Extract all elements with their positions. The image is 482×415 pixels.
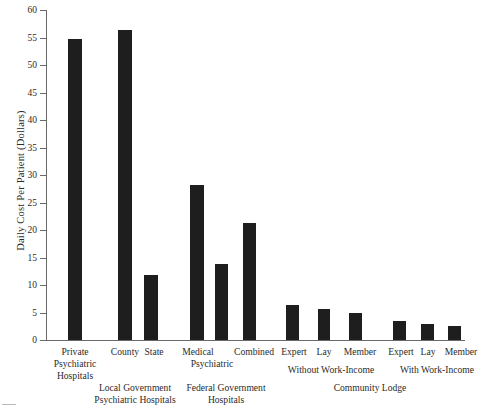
bar-expert-without-work-income [286, 305, 299, 340]
y-axis-title: Daily Cost Per Patient (Dollars) [15, 81, 26, 281]
y-tick-mark-45 [40, 93, 46, 94]
category-label-medical-line2: Psychiatric [172, 358, 252, 370]
bar-state [144, 275, 158, 340]
y-tick-label-35: 35 [0, 143, 37, 153]
group-label-with-work-income: With Work-Income [382, 364, 482, 376]
bar-combined [243, 223, 256, 340]
y-axis-line [46, 10, 47, 340]
group-label-federal-government-line2: Hospitals [188, 394, 264, 406]
y-tick-mark-30 [40, 175, 46, 176]
y-tick-label-30: 30 [0, 170, 37, 180]
y-tick-mark-5 [40, 313, 46, 314]
y-tick-mark-50 [40, 65, 46, 66]
y-tick-mark-40 [40, 120, 46, 121]
group-label-local-government-line2: Psychiatric Hospitals [67, 394, 203, 406]
y-tick-mark-25 [40, 203, 46, 204]
y-tick-label-60: 60 [0, 5, 37, 15]
y-tick-mark-60 [40, 10, 46, 11]
category-label-medical: Medical [167, 346, 229, 358]
y-tick-mark-55 [40, 38, 46, 39]
y-tick-label-45: 45 [0, 88, 37, 98]
y-tick-label-5: 5 [0, 308, 37, 318]
y-tick-mark-0 [40, 340, 46, 341]
bar-lay-with-work-income [421, 324, 434, 341]
category-label-private-line3: Hospitals [35, 370, 115, 382]
category-label-private-line2: Psychiatric [35, 358, 115, 370]
bar-member-with-work-income [448, 326, 461, 340]
bar-expert-with-work-income [393, 321, 406, 340]
y-tick-label-55: 55 [0, 33, 37, 43]
y-tick-mark-35 [40, 148, 46, 149]
category-label-member-with: Member [432, 346, 482, 358]
y-tick-label-50: 50 [0, 60, 37, 70]
group-label-without-work-income: Without Work-Income [269, 364, 393, 376]
y-tick-label-0: 0 [0, 335, 37, 345]
y-tick-mark-15 [40, 258, 46, 259]
y-tick-label-15: 15 [0, 253, 37, 263]
y-tick-label-20: 20 [0, 225, 37, 235]
bar-lay-without-work-income [318, 309, 330, 340]
page-edge-mark [2, 404, 16, 405]
bar-private-psychiatric-hospitals [68, 39, 82, 340]
bar-member-without-work-income [349, 313, 362, 340]
y-tick-mark-10 [40, 285, 46, 286]
y-tick-label-40: 40 [0, 115, 37, 125]
x-axis-line [46, 340, 465, 341]
bar-psychiatric [215, 264, 228, 340]
bar-medical [190, 185, 204, 340]
y-tick-label-25: 25 [0, 198, 37, 208]
y-tick-mark-20 [40, 230, 46, 231]
group-label-community-lodge: Community Lodge [298, 382, 442, 394]
group-label-federal-government-line1: Federal Government [163, 382, 289, 394]
bar-county [118, 30, 132, 340]
y-tick-label-10: 10 [0, 280, 37, 290]
